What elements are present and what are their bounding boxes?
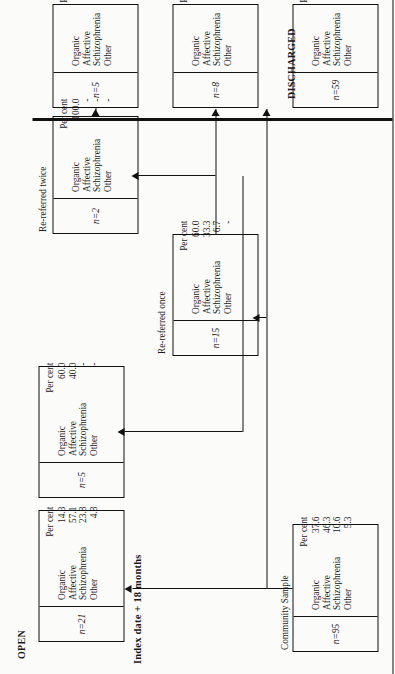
table-row: Affective 57.1	[67, 507, 78, 600]
table-row: Schizophrenia 23.8	[77, 507, 88, 600]
arrowhead-to-discharged59	[262, 109, 270, 116]
table-row: Organic 60.0	[190, 221, 201, 314]
figure-bottom-rule	[392, 0, 393, 674]
flow-diagram-canvas: Index date + 18 months OPEN DISCHARGED n…	[0, 0, 395, 674]
arrowhead-to-discharged8	[211, 109, 219, 116]
edge-rereferred2-to-open5-v	[124, 431, 242, 432]
node-community-sample-title: Community Sample	[279, 575, 289, 650]
edge-label-referred-twice: Re-referred twice	[37, 167, 47, 232]
edge-label-referred-once: Re-referred once	[156, 291, 166, 354]
table-row: Organic 100.0	[70, 99, 81, 192]
node-discharged-8[interactable]: n=8 Per cent Organic 50.0 Affective 30.0	[172, 4, 258, 108]
node-rereferred-twice-2-table: Per cent Organic 100.0 Affective - Schiz…	[58, 99, 113, 192]
table-row: Affective 30.0	[201, 0, 212, 66]
node-open-5[interactable]: n=5 Per cent Organic 60.0 Affective 40.0	[38, 366, 124, 498]
table-row: Other -	[222, 0, 233, 66]
table-row: Other -	[88, 363, 99, 456]
table-row: Affective -	[81, 99, 92, 192]
node-discharged-8-table: Per cent Organic 50.0 Affective 30.0 Sch…	[178, 0, 233, 66]
col-head-percent: Per cent	[298, 517, 310, 547]
table-row: Schizophrenia 6.7	[211, 221, 222, 314]
edge-trunk-to-open21	[132, 588, 266, 589]
table-row: Other -	[102, 0, 113, 66]
table-row: Schizophrenia -	[91, 0, 102, 66]
table-row: Schizophrenia -	[77, 363, 88, 456]
node-discharged-5-n: n=5	[53, 72, 137, 107]
node-discharged-8-n: n=8	[173, 72, 257, 107]
table-row: Organic 100.0	[70, 0, 81, 66]
table-row: Affective 45.8	[321, 0, 332, 66]
table-row: Other 6.8	[342, 0, 353, 66]
node-open-21[interactable]: n=21 Per cent Organic 14.3 Affective 57.…	[38, 510, 124, 642]
timeline-header: Index date + 18 months	[131, 554, 142, 664]
node-open-5-table: Per cent Organic 60.0 Affective 40.0 Sch…	[44, 363, 99, 456]
node-community-sample-n: n=95	[293, 616, 377, 651]
table-row: Schizophrenia 10.0	[211, 0, 222, 66]
arrowhead-to-open21	[124, 585, 131, 593]
table-row: Organic 37.6	[310, 517, 321, 610]
arrowhead-to-discharged5	[91, 109, 99, 116]
table-row: Organic 60.0	[56, 363, 67, 456]
node-rereferred-once-15[interactable]: n=15 Per cent Organic 60.0 Affective 33.…	[172, 234, 258, 356]
table-row: Organic 50.0	[190, 0, 201, 66]
table-row: Affective -	[81, 0, 92, 66]
table-row: Organic 40.7	[310, 0, 321, 66]
table-row: Schizophrenia 6.8	[331, 0, 342, 66]
table-row: Other -	[102, 99, 113, 192]
node-discharged-5-table: Per cent Organic 100.0 Affective - Schiz…	[58, 0, 113, 66]
edge-rereferred15-to-discharged8	[215, 109, 216, 234]
table-row: Schizophrenia 10.6	[331, 517, 342, 610]
node-discharged-59-table: Per cent Organic 40.7 Affective 45.8 Sch…	[298, 0, 353, 66]
node-discharged-59[interactable]: n=59 Per cent Organic 40.7 Affective 45.…	[292, 4, 378, 108]
table-row: Affective 46.3	[321, 517, 332, 610]
table-row: Other -	[222, 221, 233, 314]
table-row: Organic 14.3	[56, 507, 67, 600]
node-community-sample-table: Per cent Organic 37.6 Affective 46.3 Sch…	[298, 517, 353, 610]
edge-community-to-trunk	[266, 588, 292, 589]
table-row: Affective 40.0	[67, 363, 78, 456]
node-discharged-59-n: n=59	[293, 72, 377, 107]
edge-rereferred2-to-open5-h	[242, 176, 243, 432]
node-open-21-n: n=21	[39, 606, 123, 641]
node-open-5-n: n=5	[39, 462, 123, 497]
node-rereferred-twice-2[interactable]: n=2 Per cent Organic 100.0 Affective -	[52, 116, 138, 234]
node-rereferred-once-15-n: n=15	[173, 320, 257, 355]
table-row: Other 4.8	[88, 507, 99, 600]
arrowhead-to-open5	[117, 428, 124, 436]
edge-trunk-to-discharged59	[266, 109, 267, 589]
node-open-21-table: Per cent Organic 14.3 Affective 57.1 Sch…	[44, 507, 99, 600]
table-row: Other 5.3	[342, 517, 353, 610]
node-rereferred-twice-2-n: n=2	[53, 198, 137, 233]
figure-container: Index date + 18 months OPEN DISCHARGED n…	[0, 0, 395, 674]
arrowhead-to-rereferred2	[131, 172, 138, 180]
node-community-sample[interactable]: n=95 Per cent Organic 37.6 Affective 46.…	[292, 524, 378, 652]
edge-rereferred15-to-rereferred2	[138, 175, 215, 176]
column-header-open: OPEN	[15, 630, 26, 659]
node-discharged-5[interactable]: n=5 Per cent Organic 100.0 Affective -	[52, 4, 138, 108]
table-row: Affective 33.3	[201, 221, 212, 314]
col-head-blank	[298, 547, 310, 610]
arrowhead-to-rereferred15	[252, 314, 259, 322]
node-rereferred-once-15-table: Per cent Organic 60.0 Affective 33.3 Sch…	[178, 221, 233, 314]
